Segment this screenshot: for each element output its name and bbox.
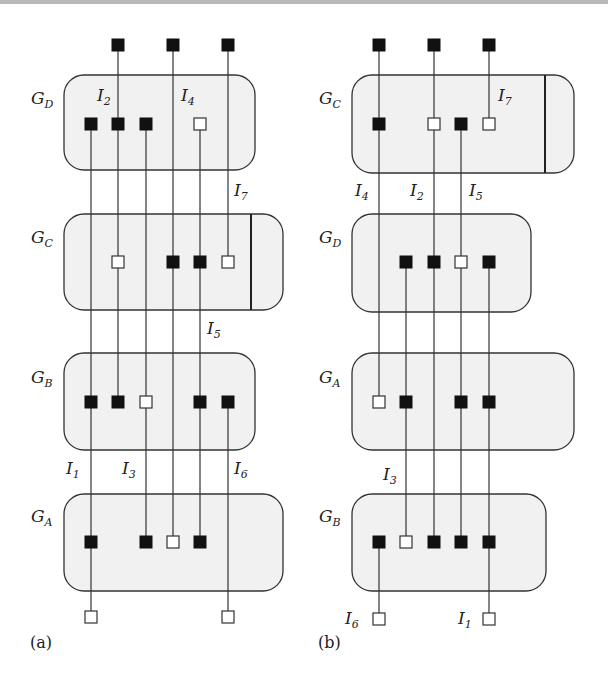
interface-label: I5: [468, 180, 483, 203]
group-label: GD: [319, 227, 342, 250]
interface-label: I7: [233, 180, 248, 203]
interface-label: I4: [354, 180, 369, 203]
group-label: GC: [319, 88, 342, 111]
panel-a: GD GC GB GA I2 I4 I7 I5 I1 I3 I6 (a): [30, 39, 283, 652]
interface-label: I3: [121, 458, 136, 481]
group-label: GA: [31, 506, 53, 529]
group-label: GB: [319, 506, 341, 529]
interface-label: I6: [233, 458, 248, 481]
interface-label: I6: [344, 608, 359, 631]
interface-label: I3: [382, 464, 397, 487]
interface-label: I5: [206, 318, 221, 341]
diagram-canvas: GD GC GB GA I2 I4 I7 I5 I1 I3 I6 (a): [0, 0, 608, 681]
bottom-terminals-a: [85, 611, 234, 623]
top-terminals-a: [112, 39, 234, 51]
group-label: GC: [31, 227, 54, 250]
panel-b: GC GD GA GB I7 I4 I2 I5 I3 I6 I1 (b): [318, 39, 574, 652]
interface-label: I1: [457, 608, 472, 631]
panel-caption: (b): [318, 633, 341, 652]
interface-label: I2: [409, 180, 424, 203]
top-terminals-b: [373, 39, 495, 51]
group-label: GB: [31, 367, 53, 390]
group-label: GA: [319, 367, 341, 390]
panel-caption: (a): [30, 633, 52, 652]
bottom-terminals-b: [373, 613, 495, 625]
interface-label: I1: [65, 458, 80, 481]
group-label: GD: [31, 88, 54, 111]
